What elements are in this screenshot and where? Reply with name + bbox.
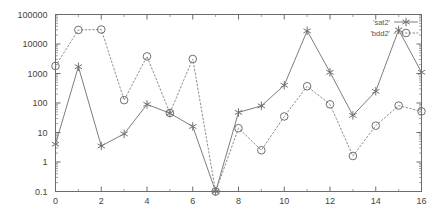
y-tick-label: 10 [37,128,47,138]
y-tick-label: 100000 [17,10,47,20]
x-tick-label: 10 [279,196,289,206]
x-tick-label: 12 [325,196,335,206]
data-point-marker [258,146,266,154]
x-axis-tick-labels: 0246810121416 [53,196,427,206]
legend-label-0: 'sat2' [373,18,391,27]
data-point-marker [143,53,151,61]
chart-container: 0.1110100100010000100000 0246810121416 '… [0,0,440,219]
data-point-marker [235,108,242,116]
plot-frame [56,15,422,192]
series-markers [52,26,426,196]
x-tick-label: 16 [416,196,426,206]
y-tick-label: 1000 [27,69,47,79]
data-point-marker [98,142,105,150]
x-tick-label: 0 [53,196,58,206]
y-tick-label: 0.1 [35,187,48,197]
data-point-marker [120,96,128,104]
data-point-marker [75,63,82,71]
x-tick-label: 14 [371,196,381,206]
data-point-marker [189,122,196,130]
data-point-marker [52,140,59,148]
x-tick-label: 8 [236,196,241,206]
log-line-chart: 0.1110100100010000100000 0246810121416 '… [0,0,440,219]
y-tick-label: 1 [42,157,47,167]
chart-legend: 'sat2''bdd2' [370,18,418,38]
x-tick-label: 6 [190,196,195,206]
x-tick-label: 2 [99,196,104,206]
data-point-marker [326,68,333,76]
x-tick-label: 4 [144,196,149,206]
axis-tick-marks [56,15,422,192]
y-tick-label: 10000 [22,39,47,49]
y-tick-label: 100 [32,98,47,108]
y-axis-tick-labels: 0.1110100100010000100000 [17,10,47,197]
data-point-marker [303,27,310,35]
legend-label-1: 'bdd2' [370,29,390,38]
data-point-marker [418,68,425,76]
